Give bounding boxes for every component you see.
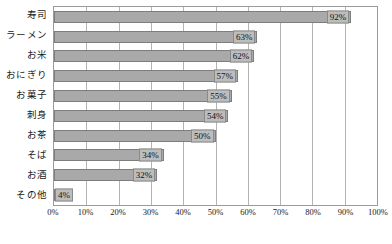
bar: 50% xyxy=(54,130,216,142)
bar: 92% xyxy=(54,11,351,23)
category-label: そば xyxy=(27,151,47,161)
bar-value-label: 50% xyxy=(191,129,214,142)
bar-value-label: 63% xyxy=(233,30,256,43)
bar-row: 32% xyxy=(54,165,377,185)
bar: 55% xyxy=(54,90,232,102)
category-label: その他 xyxy=(16,191,47,201)
bar: 32% xyxy=(54,169,157,181)
category-tick: そば xyxy=(0,146,50,166)
bar: 4% xyxy=(54,189,67,201)
category-tick: お酒 xyxy=(0,166,50,186)
bar-row: 50% xyxy=(54,126,377,146)
bar: 54% xyxy=(54,110,228,122)
category-tick: お菓子 xyxy=(0,86,50,106)
x-axis-tick-label: 100% xyxy=(368,208,388,217)
category-label: ラーメン xyxy=(6,31,47,41)
category-label: お酒 xyxy=(27,171,47,181)
x-axis-tick-label: 70% xyxy=(273,208,289,217)
x-axis-tick-label: 60% xyxy=(240,208,256,217)
x-axis-tick-label: 0% xyxy=(47,208,58,217)
bar: 63% xyxy=(54,31,257,43)
category-label: お菓子 xyxy=(16,91,47,101)
x-axis: 0%10%20%30%40%50%60%70%80%90%100% xyxy=(53,208,378,222)
x-axis-tick-label: 90% xyxy=(338,208,354,217)
bar-row: 54% xyxy=(54,106,377,126)
bar: 62% xyxy=(54,50,254,62)
bar-value-label: 54% xyxy=(204,109,227,122)
bar: 57% xyxy=(54,70,238,82)
category-label: 寿司 xyxy=(27,11,47,21)
x-axis-tick-label: 20% xyxy=(110,208,126,217)
bar-row: 62% xyxy=(54,47,377,67)
bar-value-label: 32% xyxy=(133,169,156,182)
category-tick: 寿司 xyxy=(0,6,50,26)
bar-value-label: 4% xyxy=(55,189,73,202)
horizontal-bar-chart: 寿司ラーメンお米おにぎりお菓子刺身お茶そばお酒その他 92%63%62%57%5… xyxy=(0,0,392,244)
x-axis-tick-label: 10% xyxy=(78,208,94,217)
bar-value-label: 57% xyxy=(214,70,237,83)
category-label: 刺身 xyxy=(27,111,47,121)
bar-value-label: 55% xyxy=(207,90,230,103)
x-axis-tick-label: 50% xyxy=(208,208,224,217)
bar-value-label: 92% xyxy=(327,10,350,23)
category-tick: ラーメン xyxy=(0,26,50,46)
x-axis-tick-label: 40% xyxy=(175,208,191,217)
bar-row: 63% xyxy=(54,27,377,47)
bar-value-label: 34% xyxy=(139,149,162,162)
bar-row: 57% xyxy=(54,66,377,86)
bar-row: 34% xyxy=(54,146,377,166)
category-label: お茶 xyxy=(27,131,47,141)
bar-series: 92%63%62%57%55%54%50%34%32%4% xyxy=(54,7,377,205)
plot-area: 92%63%62%57%55%54%50%34%32%4% xyxy=(53,6,378,206)
bar-value-label: 62% xyxy=(230,50,253,63)
category-tick: お茶 xyxy=(0,126,50,146)
x-axis-tick-label: 30% xyxy=(143,208,159,217)
category-label: おにぎり xyxy=(6,71,47,81)
category-axis: 寿司ラーメンお米おにぎりお菓子刺身お茶そばお酒その他 xyxy=(0,6,50,206)
bar-row: 55% xyxy=(54,86,377,106)
category-tick: 刺身 xyxy=(0,106,50,126)
bar-row: 4% xyxy=(54,185,377,205)
bar-row: 92% xyxy=(54,7,377,27)
category-tick: おにぎり xyxy=(0,66,50,86)
category-tick: お米 xyxy=(0,46,50,66)
category-label: お米 xyxy=(27,51,47,61)
bar: 34% xyxy=(54,149,164,161)
x-axis-tick-label: 80% xyxy=(305,208,321,217)
category-tick: その他 xyxy=(0,186,50,206)
